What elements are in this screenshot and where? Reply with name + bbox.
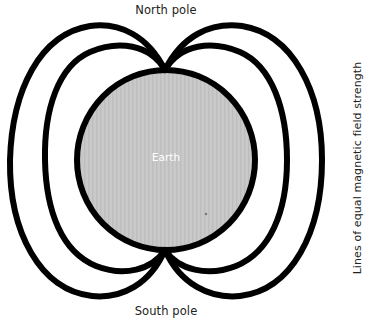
field-lines-caption: Lines of equal magnetic field strength (351, 62, 364, 275)
south-pole-label: South pole (0, 304, 332, 318)
north-pole-label: North pole (0, 3, 332, 17)
field-diagram-canvas (0, 0, 372, 329)
magnetic-field-diagram: North pole South pole Earth Lines of equ… (0, 0, 372, 329)
earth-label: Earth (142, 151, 190, 163)
